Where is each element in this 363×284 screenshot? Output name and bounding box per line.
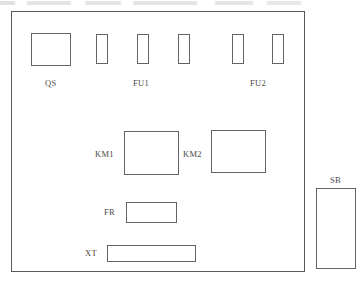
component-fu2-1[interactable] xyxy=(232,34,244,64)
component-km2[interactable] xyxy=(211,130,266,173)
component-fu1-1[interactable] xyxy=(96,34,108,64)
component-qs[interactable] xyxy=(31,33,71,66)
component-label-km2: KM2 xyxy=(183,149,202,159)
component-label-qs: QS xyxy=(45,78,56,88)
component-fu1-3[interactable] xyxy=(178,34,190,64)
component-xt[interactable] xyxy=(107,245,196,262)
component-fu2-2[interactable] xyxy=(272,34,284,64)
component-fr[interactable] xyxy=(126,202,177,223)
component-km1[interactable] xyxy=(124,131,179,175)
diagram-canvas: QS FU1 FU2 KM1 KM2 FR XT SB xyxy=(0,0,363,284)
component-fu1-2[interactable] xyxy=(137,34,149,64)
component-label-fr: FR xyxy=(104,207,115,217)
component-label-km1: KM1 xyxy=(95,149,114,159)
group-label-fu2: FU2 xyxy=(250,78,266,88)
component-label-xt: XT xyxy=(85,248,97,258)
component-sb[interactable] xyxy=(316,188,356,269)
scan-artifact xyxy=(0,1,363,5)
group-label-fu1: FU1 xyxy=(133,78,149,88)
component-label-sb: SB xyxy=(330,175,341,185)
